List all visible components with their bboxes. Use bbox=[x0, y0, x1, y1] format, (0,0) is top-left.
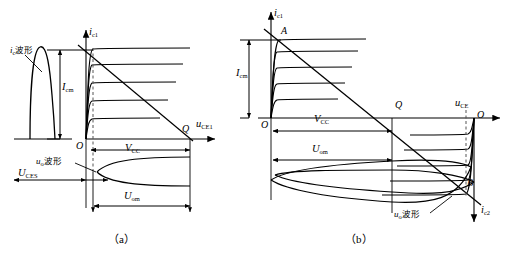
panel-b-icm-label: Icm bbox=[236, 68, 247, 79]
panel-a-uom-label: Uom bbox=[124, 191, 140, 202]
panel-b-uo-waveform-leader bbox=[430, 196, 452, 213]
panel-a-icm-label: Icm bbox=[62, 82, 73, 93]
panel-a-caption: （a） bbox=[108, 234, 135, 245]
panel-b-y-axis-label: ic1 bbox=[274, 8, 283, 19]
figure-root: ic1 uCE1 O Q ic波形 Icm VCC uo波形 UCES Uom … bbox=[0, 0, 505, 259]
panel-a-origin-label: O bbox=[76, 141, 83, 151]
panel-a-char-curve-2 bbox=[86, 100, 168, 139]
panel-a-char-curve-4 bbox=[86, 64, 183, 139]
panel-b-char-curve-top-3 bbox=[271, 67, 352, 118]
panel-b-origin-label-left: O bbox=[261, 120, 268, 130]
panel-b-uo-waveform-upper bbox=[275, 170, 474, 182]
panel-b-char-curve-top-2 bbox=[271, 83, 345, 118]
panel-b-vcc-label: VCC bbox=[314, 114, 329, 125]
panel-b-char-curve-top-4 bbox=[271, 51, 358, 118]
panel-b-uo-waveform-upper2 bbox=[275, 175, 474, 193]
panel-b-load-line bbox=[264, 29, 481, 205]
panel-a-graphics bbox=[14, 30, 215, 212]
panel-a-uo-waveform-lower bbox=[97, 172, 190, 186]
panel-a-ic-waveform bbox=[30, 47, 55, 139]
panel-a-char-curve-3 bbox=[86, 82, 176, 139]
panel-b-uo-waveform-label: uo波形 bbox=[394, 210, 420, 219]
panel-a-uo-waveform-label: uo波形 bbox=[36, 157, 62, 166]
panel-b-char-curve-bot-5 bbox=[382, 118, 474, 195]
panel-a-q-point-label: Q bbox=[182, 124, 189, 134]
panel-b-origin-label-right: O bbox=[477, 110, 484, 120]
panel-b-y2-axis-label: ic2 bbox=[481, 205, 490, 216]
figure-vector bbox=[0, 0, 505, 259]
panel-a-uo-waveform-upper bbox=[97, 157, 190, 172]
panel-b-char-curve-bot-3 bbox=[397, 118, 474, 166]
panel-b-point-a-label: A bbox=[281, 26, 287, 36]
panel-b-uom-label: Uom bbox=[312, 144, 328, 155]
panel-b-point-b-label: B bbox=[467, 178, 473, 188]
panel-b-graphics bbox=[240, 12, 500, 222]
panel-b-x-axis-label: uCE bbox=[455, 98, 469, 109]
panel-a-ic-waveform-label: ic波形 bbox=[10, 46, 33, 55]
panel-b-point-q-label: Q bbox=[395, 100, 402, 110]
panel-b-caption: （b） bbox=[345, 234, 373, 245]
panel-a-uces-label: UCES bbox=[18, 168, 38, 179]
panel-a-y-axis-label: ic1 bbox=[89, 27, 98, 38]
panel-b-char-curve-bot-1 bbox=[410, 118, 474, 135]
panel-a-vcc-label: VCC bbox=[125, 143, 140, 154]
panel-a-char-curve-1 bbox=[86, 118, 160, 139]
panel-a-x-axis-label: uCE1 bbox=[196, 119, 213, 130]
panel-a-load-line bbox=[78, 45, 193, 141]
